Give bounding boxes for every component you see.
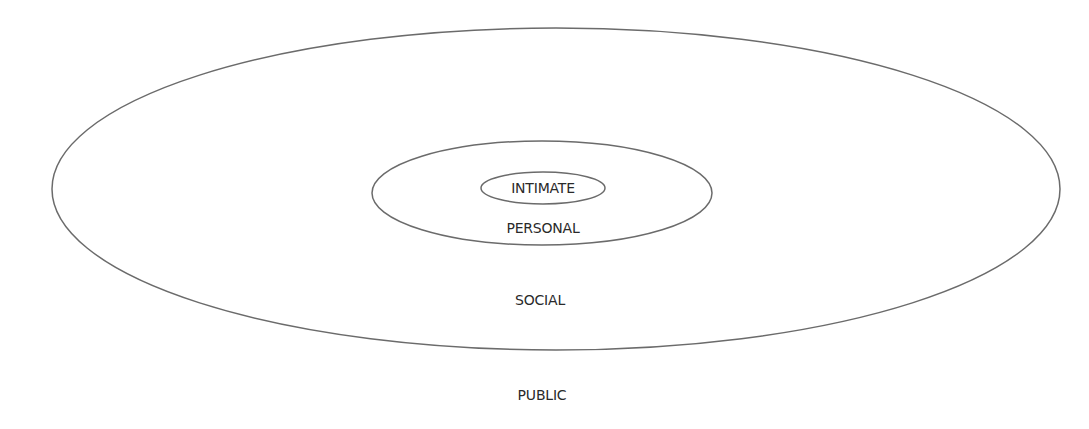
social-label: SOCIAL bbox=[515, 292, 565, 308]
personal-label: PERSONAL bbox=[506, 220, 579, 236]
public-label: PUBLIC bbox=[518, 387, 567, 403]
proxemics-diagram bbox=[0, 0, 1089, 429]
intimate-label: INTIMATE bbox=[511, 180, 575, 196]
